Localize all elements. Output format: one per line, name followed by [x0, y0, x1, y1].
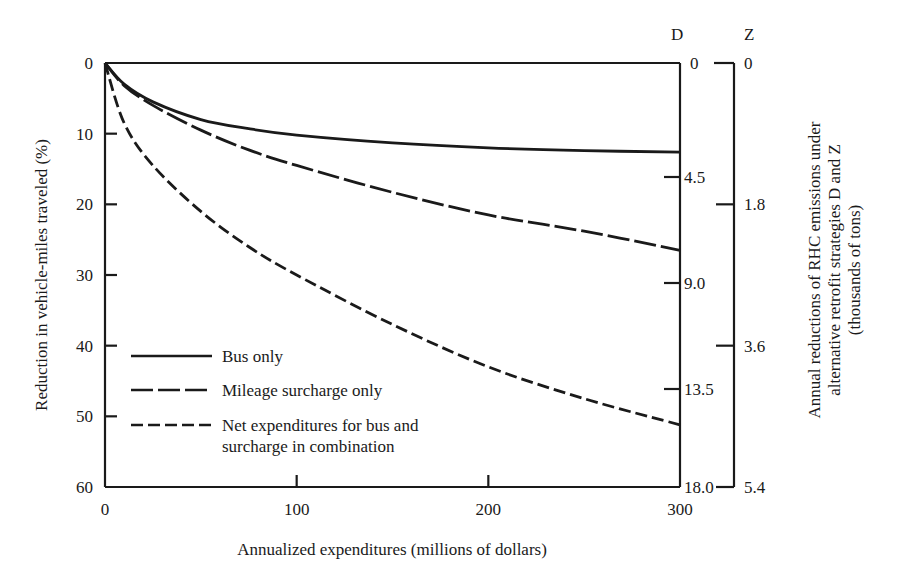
x-tick-label: 100 — [284, 500, 310, 519]
y-tick-label: 60 — [76, 478, 93, 497]
d-axis-title: D — [671, 25, 683, 44]
plot-frame — [105, 63, 734, 487]
x-tick-label: 300 — [667, 500, 693, 519]
d-tick-label: 0 — [690, 54, 699, 73]
x-tick-label: 0 — [101, 500, 110, 519]
series-layer — [105, 63, 680, 425]
y2-axis-title: Annual reductions of RHC emissions under… — [805, 121, 864, 418]
tick-labels: 0102030405060010020030004.59.013.518.001… — [76, 54, 766, 519]
d-tick-label: 9.0 — [684, 274, 705, 293]
x-tick-label: 200 — [476, 500, 502, 519]
y-tick-label: 40 — [76, 337, 93, 356]
d-tick-label: 4.5 — [684, 168, 705, 187]
legend: Bus only Mileage surcharge only Net expe… — [131, 347, 419, 456]
svg-text:(thousands of tons): (thousands of tons) — [845, 205, 864, 335]
z-tick-label: 0 — [744, 54, 753, 73]
svg-text:Annual reductions of RHC emiss: Annual reductions of RHC emissions under — [805, 121, 824, 418]
d-tick-label: 18.0 — [684, 478, 714, 497]
z-tick-label: 5.4 — [744, 478, 766, 497]
line-chart: 0102030405060010020030004.59.013.518.001… — [0, 0, 904, 580]
legend-label-combination-1: Net expenditures for bus and — [222, 416, 419, 435]
legend-label-bus-only: Bus only — [222, 347, 283, 366]
z-tick-label: 3.6 — [744, 337, 765, 356]
tick-marks — [105, 134, 734, 487]
legend-label-mileage: Mileage surcharge only — [222, 381, 383, 400]
d-tick-label: 13.5 — [684, 380, 714, 399]
z-axis-title: Z — [744, 25, 754, 44]
y-axis-title: Reduction in vehicle-miles traveled (%) — [32, 139, 51, 411]
series-line-2 — [105, 63, 680, 250]
z-tick-label: 1.8 — [744, 195, 765, 214]
svg-text:alternative retrofit strategie: alternative retrofit strategies D and Z — [825, 144, 844, 396]
y-tick-label: 30 — [76, 266, 93, 285]
series-line-1 — [105, 63, 680, 152]
y-tick-label: 20 — [76, 195, 93, 214]
y-tick-label: 10 — [76, 125, 93, 144]
x-axis-title: Annualized expenditures (millions of dol… — [237, 540, 547, 559]
y-tick-label: 50 — [76, 407, 93, 426]
legend-label-combination-2: surcharge in combination — [222, 437, 395, 456]
y-tick-label: 0 — [85, 54, 94, 73]
